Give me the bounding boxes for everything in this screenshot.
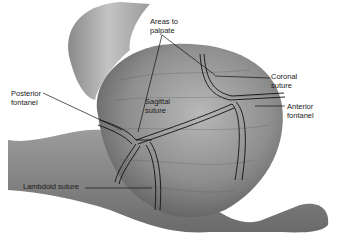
label-lambdoid-suture: Lambdoid suture xyxy=(23,183,79,192)
label-areas-to-palpate: Areas to palpate xyxy=(150,18,178,35)
anatomical-figure: Areas to palpate Coronal suture Posterio… xyxy=(0,0,337,240)
infant-skull-photo xyxy=(0,0,337,240)
label-coronal-suture: Coronal suture xyxy=(271,73,297,90)
label-anterior-fontanel: Anterior fontanel xyxy=(287,103,314,120)
label-posterior-fontanel: Posterior fontanel xyxy=(11,90,41,107)
label-sagittal-suture: Sagittal suture xyxy=(145,98,170,115)
